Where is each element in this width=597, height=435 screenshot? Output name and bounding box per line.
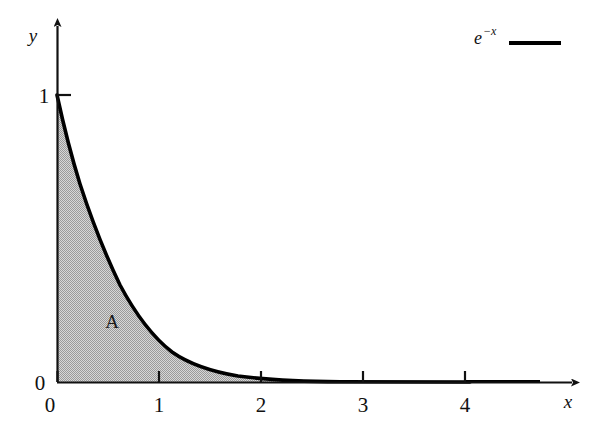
x-tick-label-1: 1: [154, 393, 165, 417]
exponential-decay-figure: y x 1 0 0 1 2 3 4 A e −x: [0, 0, 597, 435]
x-tick-label-2: 2: [256, 393, 267, 417]
x-tick-label-4: 4: [460, 393, 471, 417]
x-axis-label: x: [563, 391, 573, 412]
area-label-A: A: [105, 311, 119, 332]
y-tick-label-0: 0: [35, 371, 46, 395]
x-tick-label-0: 0: [45, 393, 56, 417]
legend-label-base: e: [474, 28, 482, 48]
legend: e −x: [474, 24, 561, 48]
shaded-area-A: [57, 95, 470, 382]
y-axis-label: y: [27, 25, 38, 46]
chart-svg: y x 1 0 0 1 2 3 4 A e −x: [0, 0, 597, 435]
area-fill-path: [57, 95, 470, 382]
x-tick-label-3: 3: [358, 393, 369, 417]
legend-label-exponent: −x: [483, 24, 497, 38]
y-tick-label-1: 1: [39, 84, 50, 108]
